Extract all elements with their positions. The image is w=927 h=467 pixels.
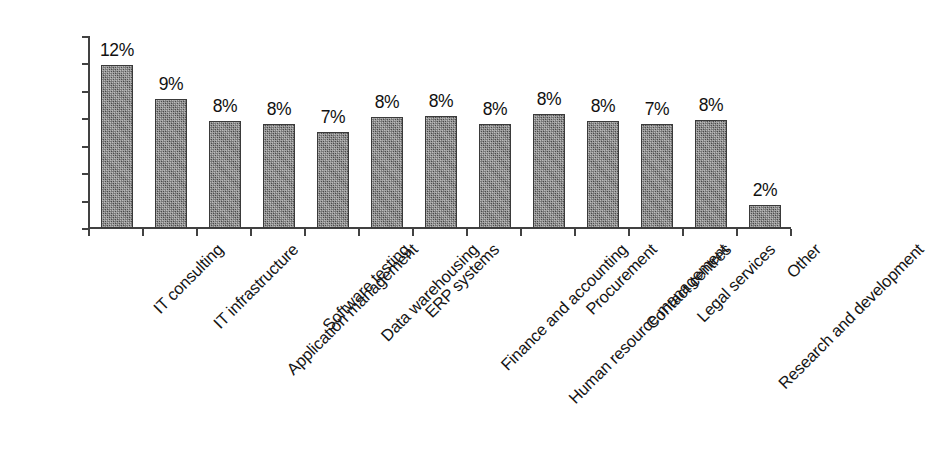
bar-value-label: 8% xyxy=(357,92,417,113)
bar-value-label: 7% xyxy=(303,107,363,128)
bar-value-label: 8% xyxy=(195,96,255,117)
bar xyxy=(587,121,619,228)
y-axis-tick-mark xyxy=(82,36,89,38)
bar xyxy=(101,65,133,228)
bar-value-label: 8% xyxy=(519,89,579,110)
x-axis-tick-mark xyxy=(574,229,576,236)
x-axis-category-label: IT consulting xyxy=(150,240,228,318)
bar xyxy=(479,124,511,228)
y-axis-tick-mark xyxy=(82,173,89,175)
bar-value-label: 8% xyxy=(573,96,633,117)
bar-value-label: 7% xyxy=(627,99,687,120)
bar xyxy=(209,121,241,228)
x-axis-tick-mark xyxy=(250,229,252,236)
x-axis-tick-mark xyxy=(88,229,90,236)
y-axis-tick-mark xyxy=(82,63,89,65)
x-axis-tick-mark xyxy=(142,229,144,236)
x-axis-tick-mark xyxy=(790,229,792,236)
y-axis-tick-mark xyxy=(82,146,89,148)
bar xyxy=(263,124,295,228)
bar xyxy=(695,120,727,228)
x-axis-category-label: Other xyxy=(783,240,825,282)
bar-value-label: 8% xyxy=(249,99,309,120)
bar-value-label: 12% xyxy=(87,40,147,61)
y-axis-tick-mark xyxy=(82,91,89,93)
bar xyxy=(533,114,565,228)
bar xyxy=(317,132,349,228)
x-axis-tick-mark xyxy=(520,229,522,236)
x-axis-tick-mark xyxy=(466,229,468,236)
x-axis-tick-mark xyxy=(628,229,630,236)
bar-value-label: 2% xyxy=(735,180,795,201)
x-axis-tick-mark xyxy=(412,229,414,236)
x-axis-tick-mark xyxy=(682,229,684,236)
y-axis-tick-mark xyxy=(82,118,89,120)
x-axis-tick-mark xyxy=(736,229,738,236)
bar xyxy=(749,205,781,228)
x-axis-tick-mark xyxy=(358,229,360,236)
bar xyxy=(641,124,673,228)
x-axis-tick-mark xyxy=(196,229,198,236)
x-axis-tick-mark xyxy=(304,229,306,236)
y-axis-tick-mark xyxy=(82,201,89,203)
bar xyxy=(371,117,403,228)
bar-value-label: 8% xyxy=(465,99,525,120)
bar xyxy=(155,99,187,228)
bar xyxy=(425,116,457,228)
bar-value-label: 8% xyxy=(681,95,741,116)
bar-value-label: 9% xyxy=(141,74,201,95)
bar-value-label: 8% xyxy=(411,91,471,112)
